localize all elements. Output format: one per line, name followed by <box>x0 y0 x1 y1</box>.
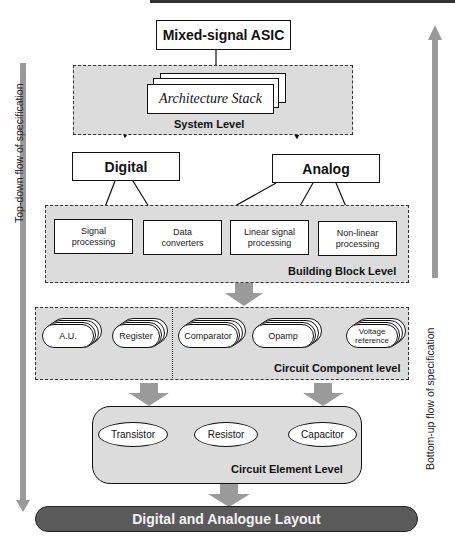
circuit-element-level-label: Circuit Element Level <box>231 463 343 475</box>
digital-analog-divider <box>172 307 173 380</box>
digital-analogue-layout-bar: Digital and Analogue Layout <box>35 506 418 532</box>
block-non-linear-processing: Non-linear processing <box>318 221 397 256</box>
block-linear-signal-processing: Linear signal processing <box>230 220 309 255</box>
component-register: Register <box>112 318 168 348</box>
bottom-up-arrow <box>428 25 442 278</box>
component-voltage-reference: Voltage reference <box>346 318 406 348</box>
analog-box: Analog <box>272 154 380 183</box>
component-comparator: Comparator <box>178 318 246 348</box>
building-block-level-label: Building Block Level <box>288 265 396 277</box>
system-level-label: System Level <box>174 118 244 130</box>
block-data-converters: Data converters <box>143 220 222 255</box>
bottom-up-label: Bottom-up flow of specification <box>424 328 436 470</box>
mixed-signal-asic-box: Mixed-signal ASIC <box>156 20 291 50</box>
component-opamp: Opamp <box>252 318 322 348</box>
top-down-label: Top-down flow of specification <box>13 84 25 224</box>
digital-box: Digital <box>72 152 180 181</box>
circuit-component-level-label: Circuit Component level <box>274 362 401 374</box>
element-transistor: Transistor <box>98 422 168 447</box>
element-capacitor: Capacitor <box>288 422 357 447</box>
component-au: A.U. <box>42 318 102 348</box>
element-resistor: Resistor <box>194 422 258 447</box>
block-signal-processing: Signal processing <box>54 219 133 254</box>
architecture-stack-box: Architecture Stack <box>147 84 274 114</box>
